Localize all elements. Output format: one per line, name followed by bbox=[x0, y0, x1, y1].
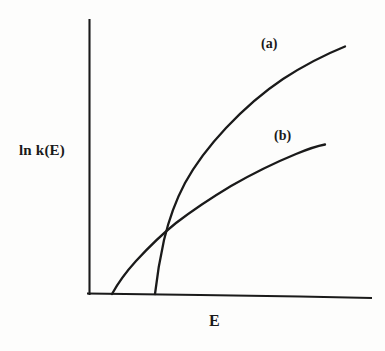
x-axis-label: E bbox=[209, 312, 220, 330]
curve-a-path bbox=[155, 47, 345, 295]
plot-area bbox=[0, 0, 385, 351]
x-axis-line bbox=[88, 294, 371, 299]
curve-a-label: (a) bbox=[261, 36, 277, 52]
chart-figure: ln k(E) E (a) (b) bbox=[0, 0, 385, 351]
y-axis-label: ln k(E) bbox=[19, 142, 65, 159]
curve-b-path bbox=[112, 145, 325, 295]
curve-b-label: (b) bbox=[274, 128, 291, 144]
